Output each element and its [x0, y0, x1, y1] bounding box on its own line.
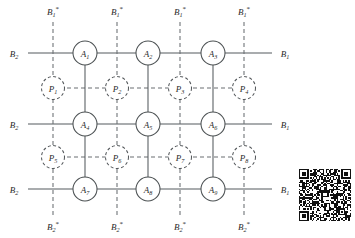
processor-node-p3[interactable]: P3	[169, 77, 192, 100]
right-port-label-0: B1	[281, 49, 290, 60]
top-port-label-3: B1*	[238, 5, 251, 18]
switch-node-a2[interactable]: A2	[136, 41, 160, 65]
processor-node-p5[interactable]: P5	[42, 146, 65, 169]
bottom-port-label-2: B2*	[174, 220, 187, 233]
top-port-labels: B1* B1* B1* B1*	[47, 5, 251, 18]
switch-node-a7[interactable]: A7	[73, 177, 97, 201]
processor-node-p6[interactable]: P6	[106, 146, 129, 169]
processor-node-p1[interactable]: P1	[42, 77, 65, 100]
figure-canvas: P1 P2 P3 P4 P5 P6	[0, 0, 355, 238]
top-port-label-1: B1*	[111, 5, 124, 18]
processor-node-p4[interactable]: P4	[233, 77, 256, 100]
left-port-label-1: B2	[10, 120, 19, 131]
switch-nodes: A1 A2 A3 A4 A5 A6	[73, 41, 225, 201]
processor-node-p7[interactable]: P7	[169, 146, 192, 169]
switch-node-a5[interactable]: A5	[136, 112, 160, 136]
bottom-port-label-3: B2*	[238, 220, 251, 233]
processor-node-p8[interactable]: P8	[233, 146, 256, 169]
switch-node-a1[interactable]: A1	[73, 41, 97, 65]
bottom-port-labels: B2* B2* B2* B2*	[47, 220, 251, 233]
top-port-label-0: B1*	[47, 5, 60, 18]
switch-node-a8[interactable]: A8	[136, 177, 160, 201]
bottom-port-label-1: B2*	[111, 220, 124, 233]
right-port-label-2: B1	[281, 185, 290, 196]
right-port-labels: B1 B1 B1	[281, 49, 290, 196]
switch-node-a9[interactable]: A9	[201, 177, 225, 201]
processor-node-p2[interactable]: P2	[106, 77, 129, 100]
switch-node-a4[interactable]: A4	[73, 112, 97, 136]
left-port-label-0: B2	[10, 49, 19, 60]
top-port-label-2: B1*	[174, 5, 187, 18]
left-port-label-2: B2	[10, 185, 19, 196]
switch-node-a3[interactable]: A3	[201, 41, 225, 65]
left-port-labels: B2 B2 B2	[10, 49, 19, 196]
right-port-label-1: B1	[281, 120, 290, 131]
bottom-port-label-0: B2*	[47, 220, 60, 233]
qr-code[interactable]	[299, 169, 351, 221]
switch-node-a6[interactable]: A6	[201, 112, 225, 136]
